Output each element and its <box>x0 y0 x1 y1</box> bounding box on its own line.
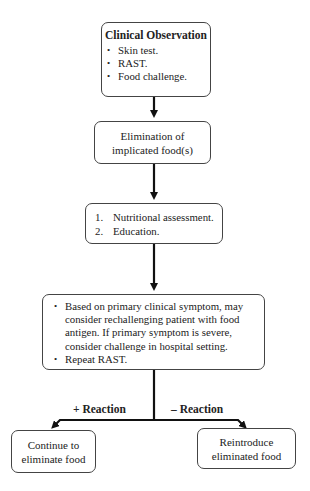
clinical-observation-title: Clinical Observation <box>102 29 210 41</box>
list-item: Repeat RAST. <box>65 353 260 366</box>
clinical-observation-list: Skin test. RAST. Food challenge. <box>102 44 210 83</box>
list-item: 1.Nutritional assessment. <box>95 210 222 224</box>
item-text: Education. <box>113 224 159 238</box>
list-item: Based on primary clinical symptom, may c… <box>65 300 260 353</box>
elimination-box: Elimination of implicated food(s) <box>94 121 211 164</box>
list-item: Skin test. <box>118 44 210 57</box>
nutrition-education-box: 1.Nutritional assessment. 2.Education. <box>85 203 223 244</box>
list-item: Food challenge. <box>118 70 210 83</box>
negative-reaction-label: – Reaction <box>171 403 223 415</box>
reintroduce-food-box: Reintroduce eliminated food <box>197 428 296 469</box>
continue-line-1: Continue to <box>12 438 95 452</box>
positive-reaction-label: + Reaction <box>73 403 126 415</box>
list-item: 2.Education. <box>95 224 222 238</box>
elimination-line-1: Elimination of <box>95 129 210 143</box>
reintroduce-line-1: Reintroduce <box>198 435 295 449</box>
continue-eliminate-box: Continue to eliminate food <box>11 430 96 473</box>
elimination-line-2: implicated food(s) <box>95 143 210 157</box>
continue-line-2: eliminate food <box>12 452 95 466</box>
nutrition-education-list: 1.Nutritional assessment. 2.Education. <box>95 210 222 238</box>
item-text: Nutritional assessment. <box>113 210 214 224</box>
list-item: RAST. <box>118 57 210 70</box>
rechallenge-box: Based on primary clinical symptom, may c… <box>42 294 265 370</box>
item-number: 2. <box>95 224 113 238</box>
rechallenge-list: Based on primary clinical symptom, may c… <box>49 300 260 366</box>
item-number: 1. <box>95 210 113 224</box>
clinical-observation-box: Clinical Observation Skin test. RAST. Fo… <box>101 22 211 97</box>
reintroduce-line-2: eliminated food <box>198 449 295 463</box>
